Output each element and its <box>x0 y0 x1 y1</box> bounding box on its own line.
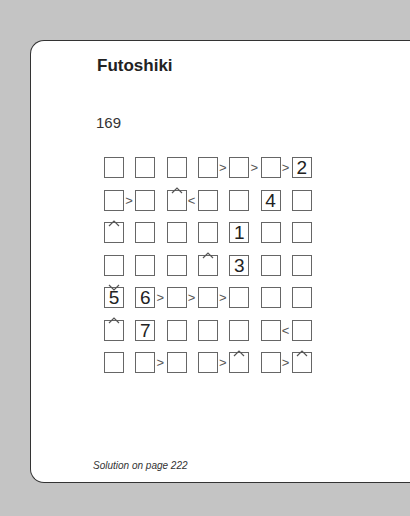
grid-cell: 1 <box>229 222 249 243</box>
grid-cell[interactable] <box>198 222 218 243</box>
grid-cell[interactable] <box>198 320 218 341</box>
grid-cell[interactable] <box>261 255 281 276</box>
grid-cell[interactable] <box>167 222 187 243</box>
grid-cell[interactable] <box>292 255 312 276</box>
greater-than-sign: > <box>281 161 291 174</box>
greater-than-sign: > <box>187 291 197 304</box>
grid-cell: 6 <box>135 287 155 308</box>
grid-cell[interactable] <box>261 157 281 178</box>
caret-up-sign <box>171 180 183 188</box>
grid-cell[interactable] <box>198 190 218 211</box>
grid-cell[interactable] <box>198 157 218 178</box>
grid-cell[interactable] <box>104 352 124 373</box>
grid-cell[interactable] <box>104 157 124 178</box>
greater-than-sign: > <box>218 291 228 304</box>
grid-cell[interactable] <box>229 157 249 178</box>
grid-cell[interactable] <box>104 190 124 211</box>
grid-cell[interactable] <box>198 352 218 373</box>
less-than-sign: < <box>281 324 291 337</box>
grid-cell[interactable] <box>292 287 312 308</box>
grid-cell: 3 <box>229 255 249 276</box>
grid-cell[interactable] <box>292 190 312 211</box>
greater-than-sign: > <box>281 356 291 369</box>
grid-cell[interactable] <box>261 320 281 341</box>
grid-cell[interactable] <box>229 190 249 211</box>
grid-cell: 7 <box>135 320 155 341</box>
puzzle-title: Futoshiki <box>97 56 173 76</box>
grid-cell[interactable] <box>229 287 249 308</box>
greater-than-sign: > <box>218 356 228 369</box>
grid-cell[interactable] <box>198 287 218 308</box>
puzzle-page <box>30 40 410 483</box>
caret-up-sign <box>233 343 245 351</box>
grid-cell[interactable] <box>135 222 155 243</box>
grid-cell[interactable] <box>135 157 155 178</box>
greater-than-sign: > <box>124 194 134 207</box>
caret-up-sign <box>108 213 120 221</box>
grid-cell: 2 <box>292 157 312 178</box>
grid-cell[interactable] <box>261 287 281 308</box>
greater-than-sign: > <box>155 291 165 304</box>
grid-cell[interactable] <box>167 255 187 276</box>
less-than-sign: < <box>187 194 197 207</box>
grid-cell[interactable] <box>167 287 187 308</box>
puzzle-number: 169 <box>96 114 121 131</box>
caret-up-sign <box>296 343 308 351</box>
caret-up-sign <box>202 245 214 253</box>
grid-cell[interactable] <box>167 320 187 341</box>
solution-reference: Solution on page 222 <box>93 460 188 471</box>
grid-cell[interactable] <box>167 157 187 178</box>
grid-cell[interactable] <box>135 352 155 373</box>
grid-cell[interactable] <box>292 320 312 341</box>
grid-cell[interactable] <box>261 352 281 373</box>
grid-cell[interactable] <box>135 190 155 211</box>
grid-cell[interactable] <box>292 222 312 243</box>
grid-cell[interactable] <box>229 320 249 341</box>
grid-cell[interactable] <box>104 255 124 276</box>
grid-cell[interactable] <box>135 255 155 276</box>
greater-than-sign: > <box>249 161 259 174</box>
grid-cell: 4 <box>261 190 281 211</box>
greater-than-sign: > <box>218 161 228 174</box>
greater-than-sign: > <box>155 356 165 369</box>
caret-up-sign <box>108 310 120 318</box>
grid-cell[interactable] <box>167 352 187 373</box>
caret-down-sign <box>108 278 120 286</box>
grid-cell[interactable] <box>261 222 281 243</box>
